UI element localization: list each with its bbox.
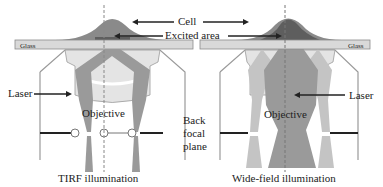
cell-label: Cell [178,15,196,27]
tirf-vs-widefield-diagram: Glass Laser Objective TIRF illumination [0,0,383,187]
bfp-label-line2: focal [183,127,205,139]
excited-area-right [260,20,320,41]
tirf-caption: TIRF illumination [58,172,139,184]
glass-label-left: Glass [20,42,36,50]
excited-area-left [95,37,130,40]
objective-label-right: Objective [264,108,307,120]
laser-label-left: Laser [8,87,33,99]
bfp-label-line3: plane [183,140,207,152]
bfp-label-line1: Back [183,114,206,126]
widefield-caption: Wide-field illumination [232,172,336,184]
laser-beam-widefield [264,44,318,168]
objective-label-left: Objective [82,107,125,119]
excited-area-label: Excited area [165,29,220,41]
glass-label-right: Glass [348,42,364,50]
laser-label-right: Laser [349,89,374,101]
widefield-panel: Glass Laser Objective Wide-field illumin… [200,5,374,184]
